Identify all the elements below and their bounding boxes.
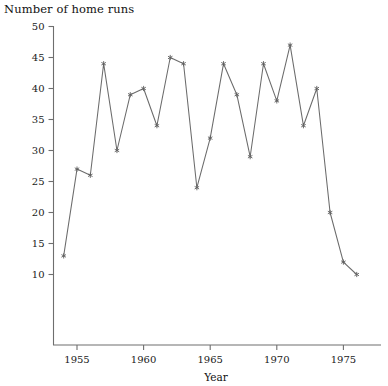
y-tick-label: 50 xyxy=(32,21,45,32)
x-tick-label: 1960 xyxy=(131,354,156,365)
data-point-marker xyxy=(288,43,293,48)
data-point-marker xyxy=(261,61,266,66)
data-point-marker xyxy=(115,148,120,153)
data-point-marker xyxy=(235,92,240,97)
data-point-marker xyxy=(128,92,133,97)
data-point-marker xyxy=(315,86,320,91)
data-point-marker xyxy=(301,123,306,128)
data-point-marker xyxy=(221,61,226,66)
y-tick-label: 45 xyxy=(32,52,45,63)
y-tick-label: 35 xyxy=(32,114,45,125)
data-point-marker xyxy=(168,55,173,60)
data-point-marker xyxy=(275,98,280,103)
data-point-marker xyxy=(208,136,213,141)
data-point-marker xyxy=(248,154,253,159)
chart-container: Number of home runs 101520253035404550 1… xyxy=(0,0,388,386)
x-tick-label: 1975 xyxy=(331,354,356,365)
y-axis-ticks: 101520253035404550 xyxy=(32,21,54,280)
x-axis-ticks: 19551960196519701975 xyxy=(64,345,356,365)
data-point-marker xyxy=(88,173,93,178)
data-point-marker xyxy=(195,185,200,190)
y-tick-label: 10 xyxy=(32,269,45,280)
data-point-marker xyxy=(328,210,333,215)
data-point-marker xyxy=(101,61,106,66)
y-tick-label: 30 xyxy=(32,145,45,156)
x-tick-label: 1970 xyxy=(264,354,289,365)
x-tick-label: 1965 xyxy=(197,354,222,365)
x-axis-title: Year xyxy=(203,371,228,383)
data-point-marker xyxy=(181,61,186,66)
y-tick-label: 20 xyxy=(32,207,45,218)
chart-plot-area: 101520253035404550 19551960196519701975 … xyxy=(0,0,388,386)
x-tick-label: 1955 xyxy=(64,354,89,365)
y-tick-label: 40 xyxy=(32,83,45,94)
data-point-marker xyxy=(61,253,66,258)
y-tick-label: 15 xyxy=(32,238,45,249)
data-point-marker xyxy=(75,167,80,172)
data-point-marker xyxy=(155,123,160,128)
y-tick-label: 25 xyxy=(32,176,45,187)
data-point-marker xyxy=(141,86,146,91)
series-line-home-runs xyxy=(64,45,357,274)
